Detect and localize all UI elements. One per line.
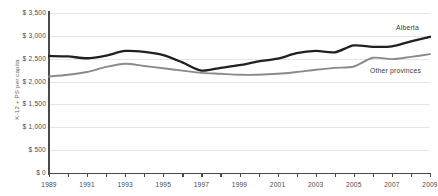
- series-label-other-provinces: Other provinces: [370, 67, 421, 74]
- series-label-alberta: Alberta: [396, 24, 419, 31]
- series-line-alberta: [49, 37, 430, 71]
